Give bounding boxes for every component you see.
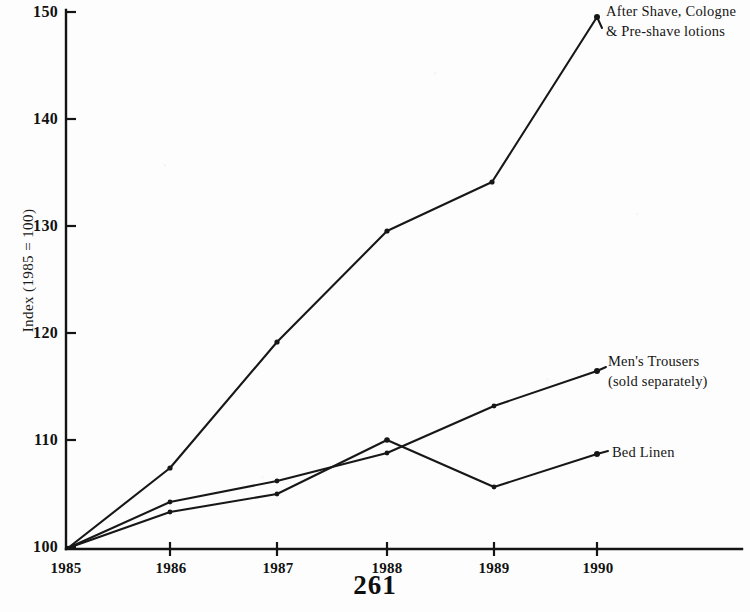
data-point	[385, 451, 390, 456]
series-line-mens-trousers	[68, 371, 597, 548]
data-point	[275, 479, 280, 484]
series-label-mens-trousers: Men's Trousers (sold separately)	[608, 352, 708, 391]
page-number: 261	[0, 570, 750, 601]
data-point	[168, 500, 173, 505]
data-point	[384, 228, 389, 233]
data-point	[492, 485, 497, 490]
series-label-line1: After Shave, Cologne	[606, 2, 736, 22]
series-label-line2: (sold separately)	[608, 372, 708, 392]
chart-page: Index (1985 = 100) 150 140 130 120 110 1…	[0, 0, 750, 612]
series-label-after-shave: After Shave, Cologne & Pre-shave lotions	[606, 2, 736, 41]
data-point	[384, 437, 390, 443]
data-point	[167, 465, 172, 470]
series-line-after-shave	[68, 17, 597, 548]
data-point	[489, 179, 494, 184]
series-label-line2: & Pre-shave lotions	[606, 22, 736, 42]
data-point	[275, 492, 280, 497]
data-point	[492, 404, 497, 409]
series-label-bed-linen: Bed Linen	[612, 443, 675, 463]
series-line-bed-linen	[68, 440, 597, 548]
data-point	[168, 510, 173, 515]
series-label-line1: Men's Trousers	[608, 352, 708, 372]
series-label-line1: Bed Linen	[612, 443, 675, 463]
data-point	[274, 339, 279, 344]
plot-area	[0, 0, 750, 612]
